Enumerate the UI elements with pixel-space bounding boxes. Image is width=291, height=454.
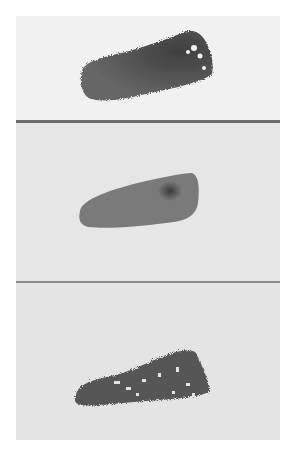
swatch-bottom [16, 283, 280, 440]
panel-bottom [16, 283, 280, 440]
swatch-top [16, 16, 280, 120]
swatch-middle [16, 123, 280, 281]
panel-top [16, 16, 280, 120]
panel-middle [16, 123, 280, 281]
photo-frame [16, 16, 280, 440]
